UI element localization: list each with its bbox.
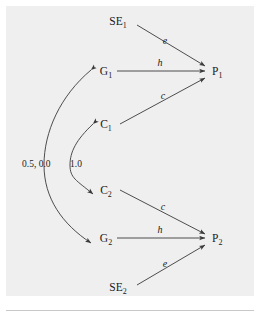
node-label-p1: P1 bbox=[212, 65, 222, 80]
node-g2: G2 bbox=[100, 232, 112, 247]
footer-divider bbox=[6, 310, 254, 311]
node-p2: P2 bbox=[212, 232, 222, 247]
node-base-g1: G bbox=[100, 65, 108, 77]
edge-line-c1-p1 bbox=[120, 78, 205, 124]
node-g1: G1 bbox=[100, 65, 112, 80]
node-sub-g1: 1 bbox=[108, 71, 112, 80]
node-base-se1: SE bbox=[109, 15, 122, 27]
edge-c1-p1: c bbox=[120, 78, 205, 124]
node-label-g2: G2 bbox=[100, 232, 112, 247]
node-base-se2: SE bbox=[109, 281, 122, 293]
node-sub-se2: 2 bbox=[123, 287, 127, 296]
node-sub-c1: 1 bbox=[108, 124, 112, 133]
node-label-g1: G1 bbox=[100, 65, 112, 80]
node-label-c2: C2 bbox=[100, 184, 112, 199]
correlation-curve-g bbox=[44, 70, 91, 243]
node-sub-se1: 1 bbox=[123, 21, 127, 30]
correlation-label-g: 0.5, 0.0 bbox=[22, 159, 51, 169]
edge-g2-p2: h bbox=[117, 224, 205, 238]
edge-se2-p2: e bbox=[137, 245, 205, 285]
edge-label-se2-p2: e bbox=[163, 258, 168, 269]
edge-c2-p2: c bbox=[120, 190, 205, 234]
node-sub-c2: 2 bbox=[108, 190, 112, 199]
node-label-se2: SE2 bbox=[109, 281, 126, 296]
correlation-c1-c2: 1.0 bbox=[70, 124, 93, 194]
node-se1: SE1 bbox=[109, 15, 126, 30]
node-base-g2: G bbox=[100, 232, 108, 244]
correlation-label-c: 1.0 bbox=[70, 159, 82, 169]
edge-label-g2-p2: h bbox=[158, 224, 163, 235]
edge-label-c2-p2: c bbox=[161, 201, 166, 212]
node-se2: SE2 bbox=[109, 281, 126, 296]
edge-label-g1-p1: h bbox=[158, 57, 163, 68]
edge-line-se2-p2 bbox=[137, 245, 205, 285]
node-label-c1: C1 bbox=[100, 118, 112, 133]
edge-g1-p1: h bbox=[117, 57, 205, 71]
node-sub-g2: 2 bbox=[108, 238, 112, 247]
node-c1: C1 bbox=[100, 118, 112, 133]
node-label-p2: P2 bbox=[212, 232, 222, 247]
node-p1: P1 bbox=[212, 65, 222, 80]
node-sub-p2: 2 bbox=[218, 238, 222, 247]
edge-line-c2-p2 bbox=[120, 190, 205, 234]
node-sub-p1: 1 bbox=[218, 71, 222, 80]
edge-se1-p1: e bbox=[137, 25, 205, 66]
node-label-se1: SE1 bbox=[109, 15, 126, 30]
figure-page: e h c c h e 0.5, 0.0 1.0 bbox=[0, 0, 260, 324]
edge-line-se1-p1 bbox=[137, 25, 205, 66]
correlation-g1-g2: 0.5, 0.0 bbox=[22, 70, 91, 243]
node-c2: C2 bbox=[100, 184, 112, 199]
path-diagram: e h c c h e 0.5, 0.0 1.0 bbox=[0, 0, 260, 324]
edge-label-c1-p1: c bbox=[161, 90, 166, 101]
edge-label-se1-p1: e bbox=[163, 35, 168, 46]
